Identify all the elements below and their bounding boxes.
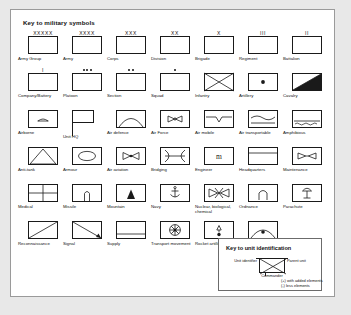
signal-icon (72, 221, 102, 239)
symbol-frame (292, 36, 322, 54)
symbol-cell-section[interactable]: Section (109, 67, 153, 104)
symbol-cell-squad[interactable]: Squad (153, 67, 197, 104)
symbol-frame (116, 73, 146, 91)
symbol-cell-bridging[interactable]: Bridging (153, 141, 197, 178)
symbol-cell-medical[interactable]: Medical (21, 178, 65, 215)
symbol-cell-mountain[interactable]: Mountain (109, 178, 153, 215)
symbol-cell-platoon[interactable]: Platoon (65, 67, 109, 104)
symbol-cell-brigade[interactable]: XBrigade (197, 30, 241, 67)
medical-icon (28, 184, 58, 202)
symbol-frame (72, 36, 102, 54)
infantry-icon (204, 73, 234, 91)
symbol-graphic (72, 221, 102, 239)
symbol-cell-supply[interactable]: Supply (109, 215, 153, 252)
symbol-cell-air-transportable[interactable]: Air transportable (241, 104, 285, 141)
rocketartillery-icon (204, 221, 234, 239)
symbol-cell-army-group[interactable]: XXXXXArmy Group (21, 30, 65, 67)
symbol-graphic: I (28, 73, 58, 91)
symbol-cell-artillery[interactable]: Artillery (241, 67, 285, 104)
airmobile-icon (204, 110, 234, 128)
echelon-marker: XXX (116, 30, 146, 36)
symbol-graphic: X (204, 36, 234, 54)
airforce-icon (160, 110, 190, 128)
military-symbol-key-panel: Key to military symbols XXXXXArmy GroupX… (10, 9, 335, 297)
symbol-cell-air-aviation[interactable]: Air aviation (109, 141, 153, 178)
airaviation-icon (116, 147, 146, 165)
symbol-cell-air-force[interactable]: Air Force (153, 104, 197, 141)
symbol-cell-nuclear-biological-chemical[interactable]: Nuclear, biological, chemical (197, 178, 241, 215)
symbol-cell-corps[interactable]: XXXCorps (109, 30, 153, 67)
symbol-cell-navy[interactable]: Navy (153, 178, 197, 215)
symbol-cell-cavalry[interactable]: Cavalry (285, 67, 329, 104)
echelon-dot (90, 69, 92, 71)
symbol-graphic (160, 110, 190, 128)
symbol-label: Regiment (238, 56, 281, 61)
symbol-cell-company-battery[interactable]: ICompany/Battery (21, 67, 65, 104)
symbol-cell-engineer[interactable]: mEngineer (197, 141, 241, 178)
echelon-marker: XXXXX (28, 30, 58, 36)
symbol-cell-amphibious[interactable]: Amphibious (285, 104, 329, 141)
symbol-cell-airborne[interactable]: Airborne (21, 104, 65, 141)
airtransportable-icon (248, 110, 278, 128)
symbol-label: Brigade (194, 56, 237, 61)
symbol-cell-headquarters[interactable]: Headquarters (241, 141, 285, 178)
antitank-icon (28, 147, 58, 165)
symbol-graphic (116, 184, 146, 202)
symbol-cell-ordnance[interactable]: Ordnance (241, 178, 285, 215)
symbol-graphic (248, 110, 278, 128)
symbol-cell-regiment[interactable]: IIIRegiment (241, 30, 285, 67)
symbol-cell-army[interactable]: XXXXArmy (65, 30, 109, 67)
symbol-cell-air-defence[interactable]: Air defence (109, 104, 153, 141)
symbol-cell-anti-tank[interactable]: Anti-tank (21, 141, 65, 178)
symbol-label: Engineer (194, 167, 237, 172)
unit-identification-legend: Key to unit identification Unit identifi… (218, 238, 322, 291)
airborne-icon (28, 110, 58, 128)
symbol-graphic (292, 73, 322, 91)
bridging-icon (160, 147, 190, 165)
symbol-cell-signal[interactable]: Signal (65, 215, 109, 252)
symbol-cell-unit-hq[interactable]: Unit HQ (65, 104, 109, 141)
symbol-label: Air defence (106, 130, 149, 135)
symbol-label: Squad (150, 93, 193, 98)
symbol-cell-infantry[interactable]: Infantry (197, 67, 241, 104)
symbol-graphic (160, 147, 190, 165)
symbol-cell-missile[interactable]: Missile (65, 178, 109, 215)
symbol-label: Air transportable (238, 130, 281, 135)
symbol-graphic (248, 184, 278, 202)
symbol-cell-armour[interactable]: Armour (65, 141, 109, 178)
symbol-label: Parachute (282, 204, 325, 209)
symbol-graphic (28, 184, 58, 202)
symbol-label: Army (62, 56, 105, 61)
symbol-label: Company/Battery (18, 93, 60, 98)
symbol-graphic (204, 221, 234, 239)
symbol-graphic: m (204, 147, 234, 165)
echelon-dot (174, 69, 176, 71)
symbol-label: Medical (18, 204, 60, 209)
symbol-frame (28, 73, 58, 91)
symbol-label: Reconnaissance (18, 241, 60, 246)
symbol-row: ICompany/BatteryPlatoonSectionSquadInfan… (21, 67, 329, 104)
echelon-dot (86, 69, 88, 71)
symbol-cell-transport-movement[interactable]: Transport movement (153, 215, 197, 252)
symbol-graphic (28, 110, 58, 128)
symbol-cell-maintenance[interactable]: Maintenance (285, 141, 329, 178)
symbol-cell-division[interactable]: XXDivision (153, 30, 197, 67)
echelon-marker: I (28, 67, 58, 73)
legend-parent-unit-label: Parent unit (287, 259, 317, 264)
symbol-graphic (116, 73, 146, 91)
symbol-graphic (292, 184, 322, 202)
symbol-label: Platoon (62, 93, 105, 98)
symbol-cell-battalion[interactable]: IIBattalion (285, 30, 329, 67)
symbol-graphic (160, 73, 190, 91)
airdefenceartillery-icon (248, 221, 278, 239)
symbol-graphic (72, 184, 102, 202)
legend-minus-note: (-) less elements (281, 284, 323, 289)
symbol-cell-air-mobile[interactable]: Air mobile (197, 104, 241, 141)
symbol-row: Anti-tankArmourAir aviationBridgingmEngi… (21, 141, 329, 178)
symbol-cell-parachute[interactable]: Parachute (285, 178, 329, 215)
symbol-graphic: II (292, 36, 322, 54)
symbol-label: Navy (150, 204, 193, 209)
echelon-marker: XX (160, 30, 190, 36)
symbol-cell-reconnaissance[interactable]: Reconnaissance (21, 215, 65, 252)
page-title: Key to military symbols (23, 19, 95, 26)
